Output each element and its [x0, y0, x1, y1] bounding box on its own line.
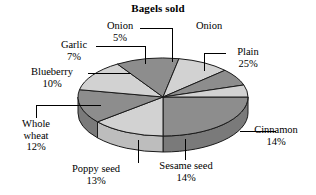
slice-label-garlic: Garlic 7%	[52, 39, 96, 62]
sesame-seed-name: Sesame seed	[144, 160, 228, 172]
whole-wheat-name-line2: wheat	[8, 130, 64, 142]
garlic-percent: 7%	[52, 51, 96, 63]
slice-label-poppy-seed: Poppy seed 13%	[54, 163, 138, 186]
blueberry-name: Blueberry	[16, 66, 88, 78]
slice-label-plain: Plain 25%	[226, 46, 270, 69]
blueberry-percent: 10%	[16, 78, 88, 90]
whole-wheat-percent: 12%	[8, 141, 64, 153]
slice-label-onion-text: Onion 5%	[98, 20, 142, 43]
sesame-seed-percent: 14%	[144, 172, 228, 184]
slice-label-blueberry: Blueberry 10%	[16, 66, 88, 89]
pie-top-slices	[78, 58, 248, 136]
cinnamon-name: Cinnamon	[244, 124, 308, 136]
plain-percent: 25%	[226, 58, 270, 70]
garlic-name: Garlic	[52, 39, 96, 51]
slice-label-cinnamon: Cinnamon 14%	[244, 124, 308, 147]
slice-label-whole-wheat: Whole wheat 12%	[8, 118, 64, 153]
slice-label-onion: Onion	[196, 20, 222, 32]
onion-label-name: Onion	[196, 20, 222, 32]
poppy-seed-percent: 13%	[54, 175, 138, 187]
whole-wheat-name-line1: Whole	[8, 118, 64, 130]
slice-label-sesame-seed: Sesame seed 14%	[144, 160, 228, 183]
plain-name: Plain	[226, 46, 270, 58]
cinnamon-percent: 14%	[244, 136, 308, 148]
onion-percent: 5%	[98, 32, 142, 44]
pie-chart-figure: Bagels sold Onion Onion 5% Garlic 7% Blu…	[0, 0, 316, 195]
onion-name: Onion	[98, 20, 142, 32]
poppy-seed-name: Poppy seed	[54, 163, 138, 175]
